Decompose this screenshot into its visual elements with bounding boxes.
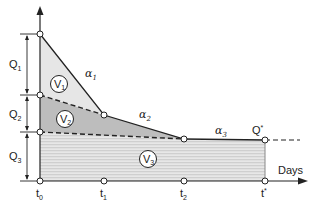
alpha3-label: α3 (215, 124, 227, 139)
q-star-label: Q* (252, 124, 264, 136)
depletion-diagram: Q1 Q2 Q3 V1 V2 V3 α1 α2 α3 Q* Days t0 t1… (0, 0, 323, 206)
region-label-v3: V3 (140, 151, 157, 168)
tick-t2: t2 (180, 187, 187, 201)
region-label-v2: V2 (57, 111, 74, 128)
q2-label: Q2 (9, 108, 22, 122)
x-axis-arrow-icon (298, 178, 308, 185)
q3-label: Q3 (9, 150, 22, 164)
tick-t1: t1 (100, 187, 107, 201)
q1-label: Q1 (9, 58, 22, 72)
x-axis-label: Days (278, 164, 304, 176)
tick-t-star: t* (261, 187, 267, 199)
region-label-v1: V1 (51, 76, 68, 93)
tick-t0: t0 (36, 187, 43, 201)
y-axis-arrow-icon (37, 6, 44, 15)
alpha2-label: α2 (139, 108, 151, 123)
alpha1-label: α1 (85, 67, 97, 82)
q-dimensions (20, 34, 40, 181)
